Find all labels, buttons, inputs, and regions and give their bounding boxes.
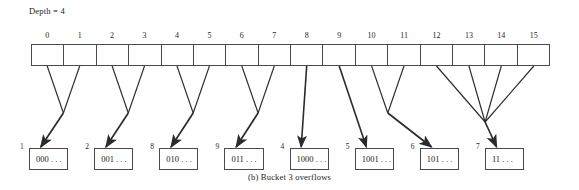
- bucket-box[interactable]: 11 . . .: [485, 148, 524, 170]
- bucket-box[interactable]: 101 . . .: [420, 148, 459, 170]
- directory-index-5: 5: [193, 29, 225, 42]
- directory-cell-14[interactable]: [485, 45, 517, 65]
- directory-index-4: 4: [161, 29, 193, 42]
- directory-cell-2[interactable]: [97, 45, 129, 65]
- directory-index-7: 7: [258, 29, 290, 42]
- bucket-box[interactable]: 011 . . .: [224, 148, 263, 170]
- pointer-edge: [242, 66, 258, 113]
- directory-cell-7[interactable]: [259, 45, 291, 65]
- bucket-box[interactable]: 010 . . .: [159, 148, 198, 170]
- pointer-edge: [388, 66, 404, 113]
- pointer-edge: [372, 66, 388, 113]
- directory-cell-6[interactable]: [226, 45, 258, 65]
- bucket-local-depth: 1: [20, 142, 24, 152]
- directory-index-3: 3: [128, 29, 160, 42]
- directory-index-12: 12: [420, 29, 452, 42]
- bucket-local-depth: 7: [476, 142, 480, 152]
- pointer-edge: [47, 66, 63, 113]
- directory-cell-12[interactable]: [421, 45, 453, 65]
- pointer-edge-arrow: [106, 113, 128, 147]
- pointer-edge: [437, 66, 486, 122]
- bucket-local-depth: 8: [150, 142, 154, 152]
- directory-cell-9[interactable]: [323, 45, 355, 65]
- directory-cell-8[interactable]: [291, 45, 323, 65]
- directory-index-15: 15: [518, 29, 550, 42]
- directory-index-8: 8: [291, 29, 323, 42]
- pointer-edge: [258, 66, 274, 113]
- global-depth-label: Depth = 4: [29, 6, 65, 16]
- directory-index-6: 6: [226, 29, 258, 42]
- bucket-local-depth: 2: [85, 142, 89, 152]
- directory-cell-3[interactable]: [129, 45, 161, 65]
- pointer-edge-arrow: [171, 113, 193, 147]
- pointer-edge-arrow: [485, 122, 497, 147]
- pointer-edge: [485, 66, 534, 122]
- directory-cell-0[interactable]: [32, 45, 64, 65]
- bucket-local-depth: 6: [411, 142, 415, 152]
- pointer-edge: [128, 66, 144, 113]
- directory-bar: [31, 44, 550, 66]
- directory-index-10: 10: [355, 29, 387, 42]
- bucket-box[interactable]: 001 . . .: [94, 148, 133, 170]
- directory-cell-4[interactable]: [162, 45, 194, 65]
- directory-index-9: 9: [323, 29, 355, 42]
- pointer-edge: [485, 66, 501, 122]
- figure-caption: (b) Bucket 3 overflows: [0, 172, 579, 182]
- bucket-local-depth: 9: [215, 142, 219, 152]
- pointer-edge-arrow: [41, 113, 64, 147]
- directory-index-row: 0123456789101112131415: [31, 29, 550, 42]
- extendible-hashing-figure: Depth = 4 0123456789101112131415 000 . .…: [0, 0, 579, 190]
- pointer-edge: [112, 66, 128, 113]
- directory-cell-13[interactable]: [453, 45, 485, 65]
- pointer-edge: [177, 66, 193, 113]
- directory-index-11: 11: [388, 29, 420, 42]
- bucket-local-depth: 4: [281, 142, 285, 152]
- directory-index-1: 1: [63, 29, 95, 42]
- pointer-edge: [193, 66, 209, 113]
- directory-cell-1[interactable]: [64, 45, 96, 65]
- pointer-edge: [301, 66, 307, 147]
- directory-cell-10[interactable]: [356, 45, 388, 65]
- directory-index-0: 0: [31, 29, 63, 42]
- directory-cell-11[interactable]: [388, 45, 420, 65]
- directory-cell-15[interactable]: [518, 45, 549, 65]
- pointer-edge-arrow: [236, 113, 258, 147]
- pointer-edge: [469, 66, 485, 122]
- directory-index-13: 13: [453, 29, 485, 42]
- directory-cell-5[interactable]: [194, 45, 226, 65]
- directory-index-14: 14: [485, 29, 517, 42]
- bucket-box[interactable]: 1000 . . .: [290, 148, 329, 170]
- directory-index-2: 2: [96, 29, 128, 42]
- bucket-local-depth: 5: [346, 142, 350, 152]
- pointer-edge: [339, 66, 366, 147]
- bucket-box[interactable]: 1001 . . .: [355, 148, 394, 170]
- bucket-box[interactable]: 000 . . .: [29, 148, 68, 170]
- pointer-edge-arrow: [388, 113, 432, 147]
- pointer-edge: [63, 66, 79, 113]
